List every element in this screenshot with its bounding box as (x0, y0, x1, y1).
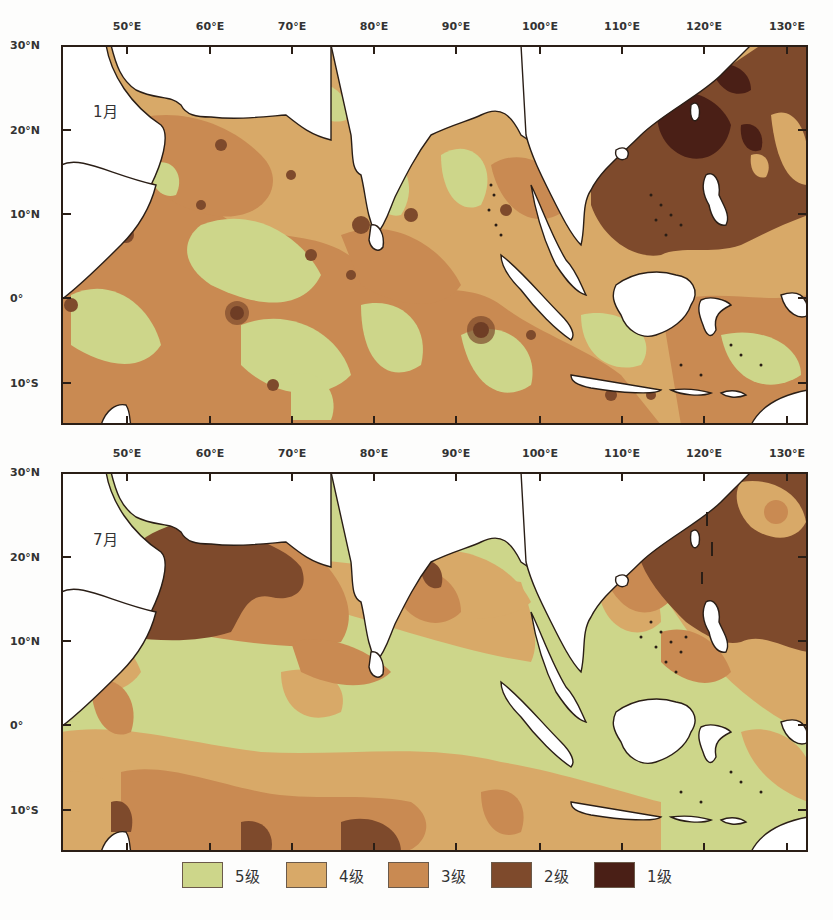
jan-lon-tick-bottom (621, 416, 623, 423)
jul-lon-tick-bottom (621, 843, 623, 850)
jul-lat-tick-left (63, 724, 71, 726)
legend-item-level-1: 1级 (594, 862, 672, 888)
jan-lon-label: 110°E (604, 20, 640, 33)
jul-lat-tick-right (798, 724, 806, 726)
jul-lat-label: 10°S (10, 804, 39, 817)
jul-lon-tick-bottom (209, 843, 211, 850)
jul-lon-tick-bottom (291, 843, 293, 850)
jul-lon-label: 70°E (278, 447, 306, 460)
map-panel-january (61, 45, 808, 425)
jul-lat-tick-left (63, 640, 71, 642)
jan-lon-tick-top (209, 47, 211, 54)
jan-lat-tick-right (798, 297, 806, 299)
jan-lon-tick-top (786, 47, 788, 54)
jul-lon-tick-top (786, 474, 788, 481)
legend-swatch-level-1 (594, 862, 635, 888)
jan-lat-tick-left (63, 382, 71, 384)
legend: 5级 4级 3级 2级 1级 (182, 862, 702, 892)
jan-lon-tick-bottom (209, 416, 211, 423)
jul-lon-label: 80°E (360, 447, 388, 460)
jul-lon-label: 60°E (196, 447, 224, 460)
legend-label-level-4: 4级 (339, 865, 364, 886)
legend-label-level-5: 5级 (235, 865, 260, 886)
jan-lon-tick-bottom (455, 416, 457, 423)
january-map-graphic (61, 45, 808, 425)
jul-lon-tick-bottom (539, 843, 541, 850)
map-panel-july (61, 472, 808, 852)
jul-lon-tick-bottom (373, 843, 375, 850)
jan-lat-tick-left (63, 213, 71, 215)
jul-lon-tick-bottom (703, 843, 705, 850)
jan-lon-tick-bottom (291, 416, 293, 423)
legend-swatch-level-5 (182, 862, 223, 888)
jan-lat-label: 20°N (10, 124, 40, 137)
legend-label-level-1: 1级 (647, 865, 672, 886)
legend-label-level-2: 2级 (544, 865, 569, 886)
legend-swatch-level-2 (491, 862, 532, 888)
jan-lat-tick-left (63, 297, 71, 299)
jan-lon-label: 100°E (522, 20, 558, 33)
legend-item-level-3: 3级 (388, 862, 466, 888)
jan-lon-tick-top (621, 47, 623, 54)
jul-lon-tick-top (209, 474, 211, 481)
jan-lon-tick-top (373, 47, 375, 54)
legend-swatch-level-4 (286, 862, 327, 888)
jul-lon-label: 50°E (113, 447, 141, 460)
jan-lon-tick-bottom (786, 416, 788, 423)
jan-lon-label: 50°E (113, 20, 141, 33)
jan-lon-label: 90°E (442, 20, 470, 33)
jul-lat-tick-left (63, 809, 71, 811)
jul-lon-label: 130°E (769, 447, 805, 460)
jul-lon-tick-bottom (455, 843, 457, 850)
jan-lat-tick-left (63, 129, 71, 131)
legend-swatch-level-3 (388, 862, 429, 888)
jan-lat-label: 30°N (10, 39, 40, 52)
jul-lon-tick-top (373, 474, 375, 481)
jan-lon-tick-bottom (539, 416, 541, 423)
jul-lon-tick-top (455, 474, 457, 481)
jul-lat-label: 30°N (10, 466, 40, 479)
legend-item-level-2: 2级 (491, 862, 569, 888)
jul-lat-tick-right (798, 809, 806, 811)
jan-lon-tick-bottom (126, 416, 128, 423)
jan-lon-label: 130°E (769, 20, 805, 33)
jan-lat-tick-right (798, 129, 806, 131)
jul-lon-tick-bottom (126, 843, 128, 850)
jan-lat-label: 0° (10, 292, 23, 305)
jan-lat-tick-right (798, 213, 806, 215)
jul-lon-tick-top (621, 474, 623, 481)
jan-lon-tick-top (126, 47, 128, 54)
jan-lon-label: 70°E (278, 20, 306, 33)
legend-item-level-5: 5级 (182, 862, 260, 888)
legend-item-level-4: 4级 (286, 862, 364, 888)
jan-lon-label: 60°E (196, 20, 224, 33)
jul-lon-label: 90°E (442, 447, 470, 460)
legend-label-level-3: 3级 (441, 865, 466, 886)
month-label-january: 1月 (93, 100, 118, 121)
jul-lat-tick-right (798, 556, 806, 558)
july-map-graphic (61, 472, 808, 852)
jan-lon-label: 80°E (360, 20, 388, 33)
jul-lon-tick-top (703, 474, 705, 481)
jan-lat-label: 10°S (10, 377, 39, 390)
jul-lon-label: 100°E (522, 447, 558, 460)
jan-lon-tick-top (291, 47, 293, 54)
month-label-july: 7月 (93, 528, 118, 549)
jan-lon-tick-top (703, 47, 705, 54)
jul-lon-tick-top (126, 474, 128, 481)
jul-lon-tick-top (539, 474, 541, 481)
jan-lon-tick-bottom (373, 416, 375, 423)
jul-lat-label: 0° (10, 719, 23, 732)
jan-lat-tick-right (798, 382, 806, 384)
jul-lon-label: 110°E (604, 447, 640, 460)
jul-lat-label: 20°N (10, 551, 40, 564)
jul-lat-tick-left (63, 556, 71, 558)
jul-lon-tick-bottom (786, 843, 788, 850)
jan-lat-label: 10°N (10, 208, 40, 221)
jan-lon-label: 120°E (686, 20, 722, 33)
jul-lon-tick-top (291, 474, 293, 481)
jan-lon-tick-top (539, 47, 541, 54)
jul-lon-label: 120°E (686, 447, 722, 460)
jul-lat-label: 10°N (10, 635, 40, 648)
jan-lon-tick-bottom (703, 416, 705, 423)
